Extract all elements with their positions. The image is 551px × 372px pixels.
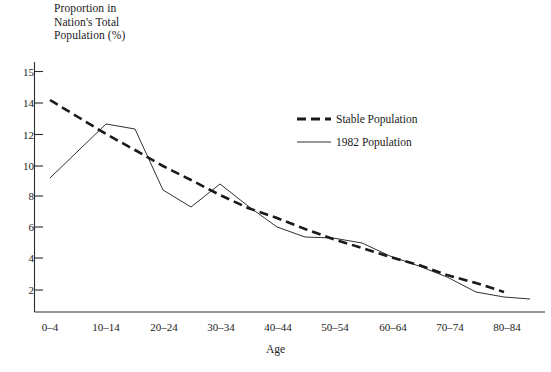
y-axis-ticks <box>35 72 44 291</box>
series-line-stable-population <box>50 100 504 292</box>
population-age-distribution-chart: Proportion in Nation's Total Population … <box>0 0 551 372</box>
legend-swatches <box>297 119 331 142</box>
chart-canvas <box>0 0 551 372</box>
series-line-1982-population <box>50 124 530 299</box>
axes <box>35 62 546 312</box>
